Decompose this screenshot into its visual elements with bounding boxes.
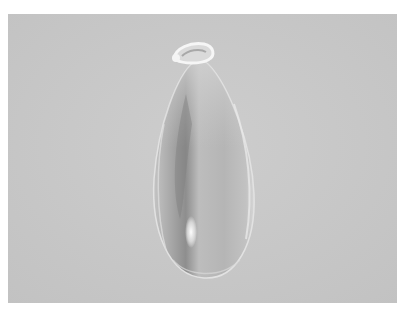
photo-frame (0, 0, 407, 311)
specular-highlight (185, 216, 197, 248)
glass-drop-pendant (8, 14, 397, 303)
photo (8, 14, 397, 303)
